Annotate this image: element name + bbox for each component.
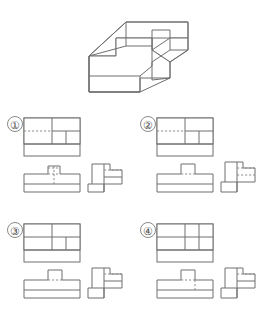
options-grid: ① <box>0 108 267 321</box>
option-1[interactable]: ① <box>0 108 133 214</box>
isometric-svg <box>0 0 267 108</box>
option-3-views <box>0 214 133 320</box>
option-3-side-view <box>88 268 122 298</box>
option-2-side-view <box>221 162 255 192</box>
option-1-top-view <box>24 118 80 156</box>
option-2-front-view <box>157 164 213 192</box>
option-1-side-view <box>88 164 122 192</box>
option-2-top-view <box>157 118 213 156</box>
option-4[interactable]: ④ <box>133 214 266 320</box>
option-3-top-view <box>24 224 80 262</box>
option-2[interactable]: ② <box>133 108 266 214</box>
option-1-views <box>0 108 133 214</box>
option-4-views <box>133 214 266 320</box>
option-3[interactable]: ③ <box>0 214 133 320</box>
option-4-side-view <box>221 268 255 298</box>
option-4-top-view <box>157 224 213 262</box>
projection-question-page: ① <box>0 0 267 321</box>
isometric-figure <box>0 0 267 108</box>
option-1-front-view <box>24 166 80 192</box>
option-2-views <box>133 108 266 214</box>
option-4-front-view <box>157 270 213 298</box>
option-3-front-view <box>24 270 80 298</box>
